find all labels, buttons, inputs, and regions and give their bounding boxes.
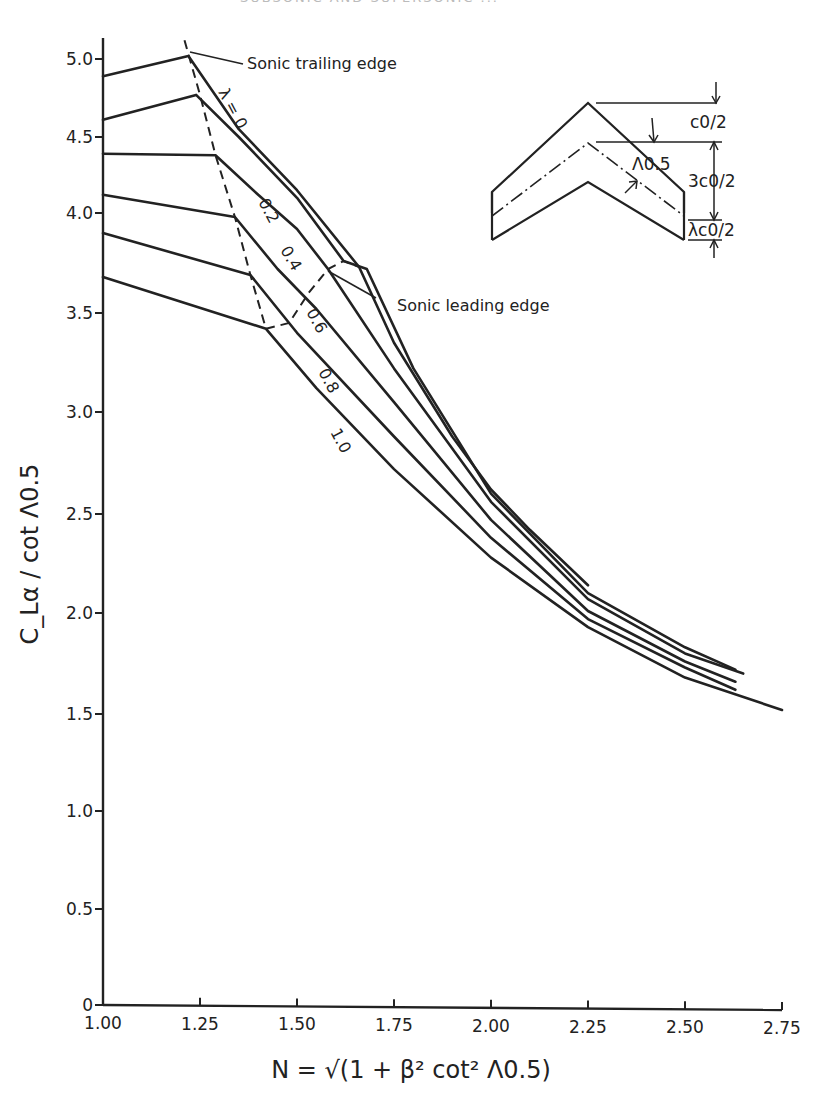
- y-tick-label: 4.5: [66, 127, 93, 147]
- inset-label-lambda-c0-half: λc0/2: [688, 220, 735, 240]
- y-tick-label: 0: [82, 995, 93, 1015]
- chart-canvas: 00.51.01.52.02.53.03.54.04.55.01.001.251…: [0, 0, 822, 1109]
- sonic-leading-edge-label: Sonic leading edge: [397, 296, 550, 315]
- y-tick-label: 0.5: [66, 899, 93, 919]
- x-axis-line: [103, 1005, 782, 1010]
- sonic-trailing-edge-line: [185, 40, 267, 329]
- y-tick-label: 1.0: [66, 801, 93, 821]
- x-tick-label: 1.25: [181, 1014, 219, 1034]
- curve-lambda-0: [103, 56, 588, 585]
- y-axis-label: C_Lα / cot Λ0.5: [16, 454, 44, 654]
- x-tick-label: 1.00: [84, 1013, 122, 1033]
- inset-label-c0-half: c0/2: [690, 112, 727, 132]
- sonic-trailing-edge-label: Sonic trailing edge: [247, 54, 397, 73]
- x-tick-label: 2.50: [666, 1017, 704, 1037]
- x-tick-label: 2.75: [763, 1018, 801, 1038]
- x-tick-label: 1.75: [375, 1015, 413, 1035]
- sonic-trailing-edge-leader: [190, 52, 243, 64]
- x-tick-label: 1.50: [278, 1014, 316, 1034]
- y-tick-label: 2.5: [66, 504, 93, 524]
- y-tick-label: 4.0: [66, 203, 93, 223]
- y-tick-label: 2.0: [66, 603, 93, 623]
- y-tick-label: 1.5: [66, 704, 93, 724]
- curve-label: 1.0: [326, 425, 355, 456]
- curve-label: 0.4: [277, 243, 306, 275]
- inset-label-3c0-half: 3c0/2: [688, 171, 736, 191]
- sonic-boundaries: [185, 40, 360, 329]
- x-axis-label: N = √(1 + β² cot² Λ0.5): [0, 1056, 822, 1084]
- curve-lambda-0-6: [103, 195, 735, 682]
- x-tick-label: 2.00: [472, 1016, 510, 1036]
- curve-label: 0.2: [254, 195, 283, 226]
- y-tick-label: 3.0: [66, 402, 93, 422]
- curve-label: λ = 0: [214, 85, 251, 132]
- curve-lambda-0-4: [103, 154, 743, 674]
- curve-label: 0.6: [302, 305, 331, 336]
- x-tick-label: 2.25: [569, 1017, 607, 1037]
- curves: [103, 56, 782, 710]
- y-tick-label: 3.5: [66, 303, 93, 323]
- inset-label-sweep: Λ0.5: [632, 154, 671, 174]
- y-tick-label: 5.0: [66, 49, 93, 69]
- wing-planform-inset: c0/2 3c0/2 λc0/2 Λ0.5: [492, 82, 736, 258]
